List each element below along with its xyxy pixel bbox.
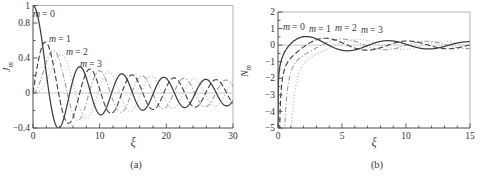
- chart-b: 051015−5−4−3−2−1012m= 0m= 1m= 2m= 3: [265, 7, 475, 141]
- chart-a-curve-m1: [33, 42, 233, 123]
- chart-a: 0102030−0.400.40.81m= 0m= 1m= 2m= 3: [13, 1, 238, 141]
- chart-b-series-label-m1: m= 1: [309, 23, 331, 34]
- chart-a-frame-topright: [33, 6, 233, 129]
- chart-a-y-tick-label: 0.4: [18, 53, 30, 63]
- x-axis-label-b: ξ: [359, 135, 389, 150]
- caption-b: (b): [362, 159, 392, 170]
- chart-b-y-tick-label: −5: [265, 123, 275, 133]
- chart-a-curve-m0: [33, 6, 233, 129]
- chart-b-x-tick-label: 10: [401, 131, 411, 141]
- chart-b-curve-m3: [278, 40, 470, 138]
- chart-a-series-label-m2: m= 2: [66, 46, 88, 57]
- chart-a-ticks: [33, 6, 233, 129]
- y-axis-label-a-base: J: [1, 67, 12, 71]
- chart-a-x-tick-label: 10: [95, 131, 105, 141]
- chart-a-series-label-m0: m= 0: [33, 8, 55, 19]
- chart-b-x-tick-label: 5: [340, 131, 345, 141]
- bessel-functions-figure: 0102030−0.400.40.81m= 0m= 1m= 2m= 305101…: [0, 0, 480, 181]
- chart-a-x-tick-label: 30: [228, 131, 238, 141]
- chart-b-y-tick-label: −3: [265, 90, 275, 100]
- y-axis-label-a: Jm: [0, 50, 14, 84]
- chart-b-curve-m2: [278, 39, 470, 137]
- chart-b-series-label-m2: m= 2: [335, 22, 357, 33]
- chart-a-x-tick-label: 20: [162, 131, 172, 141]
- chart-a-series-label-m3: m= 3: [80, 58, 102, 69]
- chart-a-y-tick-label: −0.4: [13, 123, 30, 133]
- chart-a-series-label-m1: m= 1: [49, 33, 71, 44]
- chart-a-y-tick-label: 0.8: [18, 18, 30, 28]
- plots-canvas: 0102030−0.400.40.81m= 0m= 1m= 2m= 305101…: [0, 0, 480, 181]
- chart-b-series-label-m0: m= 0: [283, 21, 305, 32]
- chart-b-x-tick-label: 15: [465, 131, 475, 141]
- chart-b-y-tick-label: −4: [265, 107, 275, 117]
- chart-a-x-tick-label: 0: [31, 131, 36, 141]
- y-axis-label-b-sub: m: [244, 65, 253, 70]
- caption-a: (a): [121, 159, 151, 170]
- chart-a-y-tick-label: 0: [25, 88, 30, 98]
- chart-b-curves: [278, 37, 470, 138]
- y-axis-label-b-base: N: [239, 70, 250, 77]
- chart-a-curve-m2: [33, 50, 233, 120]
- x-axis-label-a: ξ: [118, 135, 148, 150]
- chart-a-curve-m3: [33, 55, 233, 118]
- chart-b-y-tick-label: −2: [265, 73, 275, 83]
- chart-a-y-tick-label: 1: [25, 1, 30, 11]
- chart-b-y-tick-label: −1: [265, 57, 275, 67]
- chart-a-frame-leftbottom: [33, 6, 233, 129]
- chart-b-y-tick-label: 1: [270, 24, 275, 34]
- chart-b-series-label-m3: m= 3: [361, 24, 383, 35]
- y-axis-label-a-sub: m: [6, 62, 15, 67]
- y-axis-label-b: Nm: [238, 54, 252, 88]
- chart-b-y-tick-label: 2: [270, 7, 275, 17]
- chart-b-y-tick-label: 0: [270, 40, 275, 50]
- chart-b-x-tick-label: 0: [276, 131, 281, 141]
- chart-a-curves: [33, 6, 233, 129]
